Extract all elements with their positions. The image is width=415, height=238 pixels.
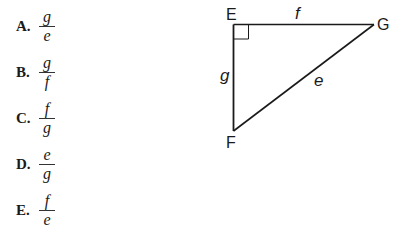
triangle-figure: E G F f g e xyxy=(0,0,415,238)
side-f-label: f xyxy=(295,4,302,23)
right-angle-marker-icon xyxy=(234,25,249,40)
side-g-label: g xyxy=(220,66,230,85)
side-e-label: e xyxy=(314,71,323,90)
vertex-g-label: G xyxy=(377,16,389,33)
vertex-f-label: F xyxy=(226,134,236,151)
vertex-e-label: E xyxy=(226,6,237,23)
side-fg xyxy=(234,25,375,132)
